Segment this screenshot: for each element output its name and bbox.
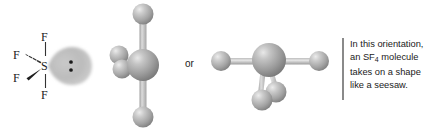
callout-text-block: In this orientation, an SF4 molecule tak… [350, 38, 423, 100]
lewis-label-fluorine-top: F [41, 31, 48, 43]
callout-line-3: takes on a shape [350, 66, 423, 79]
callout-line-2-post: molecule [379, 52, 419, 62]
callout-line-4: like a seesaw. [350, 79, 423, 92]
fluorine-sphere-left [211, 51, 231, 71]
fluorine-sphere-top [133, 4, 154, 25]
lone-pair-dot-lower [69, 68, 73, 72]
or-connector-label: or [185, 58, 194, 69]
callout-line-2-pre: an SF [350, 52, 375, 62]
lone-pair-lobe [48, 47, 92, 85]
lone-pair-dot-upper [69, 60, 73, 64]
callout-line-1: In this orientation, [350, 38, 423, 51]
bond-s-f-solid-wedge [27, 69, 42, 81]
lewis-structure-diagram: F S F F F [0, 0, 110, 131]
fluorine-sphere-down-front [252, 90, 273, 111]
lewis-label-sulfur: S [41, 60, 48, 72]
callout-line-2: an SF4 molecule [350, 51, 423, 67]
lewis-label-fluorine-bottom: F [41, 89, 48, 101]
sulfur-sphere-center [252, 43, 286, 77]
lewis-label-fluorine-dashed: F [13, 49, 20, 61]
lewis-structure-svg [0, 0, 110, 131]
ball-and-stick-model-right [205, 0, 335, 131]
fluorine-sphere-right [309, 51, 329, 71]
fluorine-sphere-bottom [133, 107, 154, 128]
callout-vertical-rule [342, 38, 344, 100]
sulfur-sphere-center [127, 49, 159, 81]
sf4-geometry-figure: F S F F F [0, 0, 439, 131]
lewis-label-fluorine-wedge: F [13, 72, 20, 84]
callout-annotation: In this orientation, an SF4 molecule tak… [342, 38, 437, 100]
bond-s-f-dashed-wedge [26, 55, 41, 63]
ball-and-stick-model-left [110, 0, 190, 131]
